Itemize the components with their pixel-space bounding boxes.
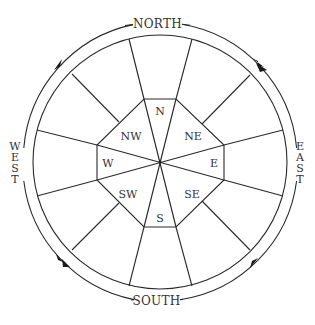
sector-se: SE <box>184 188 200 201</box>
svg-text:T: T <box>11 173 19 186</box>
label-west: W E S T <box>9 140 21 186</box>
label-east: E A S T <box>295 140 305 186</box>
sector-s: S <box>156 212 164 225</box>
arrow-lower-left-2-icon <box>62 259 70 267</box>
sector-nw: NW <box>121 130 143 143</box>
sector-sw: SW <box>119 188 139 201</box>
label-south: SOUTH <box>132 294 180 308</box>
arrow-upper-left-icon <box>54 59 64 70</box>
label-north: NORTH <box>133 17 182 31</box>
arrow-lower-right-2-icon <box>250 258 258 268</box>
compass-diagram: NORTH SOUTH E A S T W E S T N NE E SE S … <box>0 0 315 325</box>
center-point <box>159 161 162 164</box>
sector-n: N <box>155 105 165 118</box>
sector-ne: NE <box>184 130 202 143</box>
arrow-upper-right-2-icon <box>256 63 267 72</box>
sector-w: W <box>102 157 114 170</box>
sector-e: E <box>210 157 218 170</box>
svg-text:T: T <box>296 173 304 186</box>
